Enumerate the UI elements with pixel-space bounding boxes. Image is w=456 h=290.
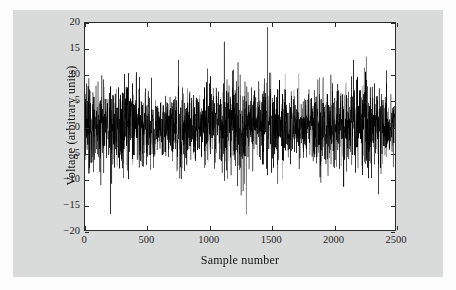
y-tick-mark xyxy=(85,75,89,76)
x-tick-label: 1000 xyxy=(198,235,219,245)
x-tick-mark xyxy=(210,226,211,230)
y-tick-mark xyxy=(391,180,395,181)
y-tick-mark xyxy=(391,23,395,24)
y-tick-mark xyxy=(85,154,89,155)
y-tick-mark xyxy=(391,154,395,155)
x-tick-mark xyxy=(272,23,273,27)
y-tick-mark xyxy=(85,206,89,207)
x-tick-mark xyxy=(210,23,211,27)
y-tick-mark xyxy=(391,101,395,102)
y-tick-mark xyxy=(391,75,395,76)
y-tick-mark xyxy=(391,232,395,233)
y-tick-label: −20 xyxy=(64,226,80,236)
x-tick-label: 500 xyxy=(139,235,155,245)
x-tick-label: 0 xyxy=(81,235,86,245)
x-tick-mark xyxy=(335,226,336,230)
x-tick-mark xyxy=(397,226,398,230)
plot-frame xyxy=(84,22,396,231)
y-axis-label: Voltage (arbitrary units) xyxy=(64,31,79,221)
y-tick-mark xyxy=(85,128,89,129)
x-tick-mark xyxy=(147,23,148,27)
y-tick-mark xyxy=(85,49,89,50)
y-tick-mark xyxy=(391,49,395,50)
x-tick-mark xyxy=(85,23,86,27)
signal-trace-canvas xyxy=(85,23,395,230)
y-tick-mark xyxy=(391,206,395,207)
x-tick-mark xyxy=(272,226,273,230)
x-tick-label: 1500 xyxy=(261,235,282,245)
x-axis-label: Sample number xyxy=(84,253,396,268)
y-tick-mark xyxy=(85,101,89,102)
x-tick-label: 2000 xyxy=(323,235,344,245)
y-tick-mark xyxy=(391,128,395,129)
x-tick-mark xyxy=(147,226,148,230)
y-tick-mark xyxy=(85,232,89,233)
x-tick-mark xyxy=(335,23,336,27)
y-tick-label: 20 xyxy=(70,17,81,27)
x-tick-mark xyxy=(397,23,398,27)
y-tick-mark xyxy=(85,180,89,181)
x-tick-label: 2500 xyxy=(386,235,407,245)
figure-panel: 20151050−5−10−15−20 05001000150020002500… xyxy=(13,10,443,277)
screenshot-root: 20151050−5−10−15−20 05001000150020002500… xyxy=(0,0,456,290)
x-tick-mark xyxy=(85,226,86,230)
